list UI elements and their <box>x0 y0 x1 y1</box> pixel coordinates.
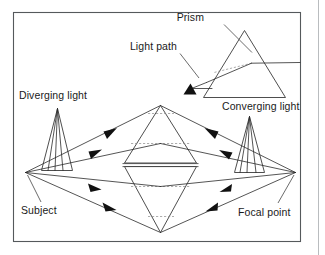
light-path-label: Light path <box>130 40 177 52</box>
optics-diagram-figure: Prism Light path Diverging light <box>0 0 325 255</box>
converging-light-label: Converging light <box>222 100 299 112</box>
subject-label: Subject <box>21 204 57 216</box>
focal-point-label: Focal point <box>238 206 290 218</box>
diverging-light-label: Diverging light <box>19 89 87 101</box>
diagram-canvas: Prism Light path Diverging light <box>0 0 325 255</box>
prism-label: Prism <box>177 11 204 23</box>
